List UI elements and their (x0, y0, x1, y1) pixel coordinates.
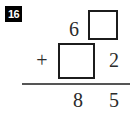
sum-tens-digit: 8 (68, 90, 88, 110)
addend-bottom-ones-digit: 2 (104, 50, 124, 70)
addend-top-tens-digit: 6 (64, 19, 84, 39)
sum-rule-line (22, 83, 130, 85)
plus-operator: + (33, 50, 51, 70)
answer-box-top-ones[interactable] (88, 10, 118, 40)
sum-ones-digit: 5 (104, 90, 124, 110)
answer-box-bottom-tens[interactable] (58, 43, 95, 79)
addition-problem-worksheet: 16 6 + 2 8 5 (0, 0, 134, 117)
problem-number-badge: 16 (5, 6, 22, 22)
